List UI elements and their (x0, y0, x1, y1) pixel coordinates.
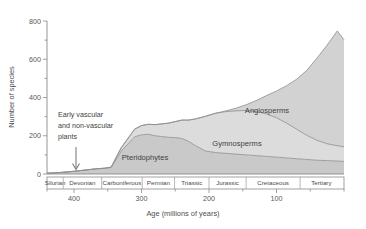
y-tick-label-0: 0 (37, 170, 41, 179)
period-label-jurassic: Jurassic (216, 179, 239, 186)
y-tick-label-600: 600 (29, 55, 41, 64)
period-label-devonian: Devonian (69, 179, 96, 186)
y-tick-label-800: 800 (29, 17, 41, 26)
series-label-gymnosperms: Gymnosperms (212, 139, 262, 148)
x-tick-label-300: 300 (136, 194, 148, 203)
y-axis-title: Number of species (7, 66, 16, 128)
x-axis-title: Age (millions of years) (146, 209, 219, 218)
geologic-period-strip: SilurianDevonianCarboniferousPermianTria… (45, 177, 344, 189)
early-plants-annotation: Early vascular and non-vascular plants (58, 110, 114, 170)
series-label-pteridophytes: Pteridophytes (122, 153, 169, 162)
x-axis-ticks: 400300200100 (47, 189, 344, 203)
period-label-tertiary: Tertiary (311, 179, 332, 186)
period-label-triassic: Triassic (181, 179, 202, 186)
period-label-carboniferous: Carboniferous (102, 179, 141, 186)
annotation-line-1: Early vascular (58, 110, 104, 119)
annotation-line-2: and non-vascular (58, 121, 114, 130)
y-tick-label-400: 400 (29, 93, 41, 102)
y-axis: 0200400600800 (29, 17, 47, 179)
annotation-line-3: plants (58, 132, 78, 141)
series-label-angiosperms: Angiosperms (245, 106, 290, 115)
y-tick-label-200: 200 (29, 131, 41, 140)
y-axis-ticks: 0200400600800 (29, 17, 47, 179)
x-tick-label-200: 200 (203, 194, 215, 203)
period-label-cretaceous: Cretaceous (257, 179, 289, 186)
x-tick-label-400: 400 (68, 194, 80, 203)
species-diversity-area-chart: 0200400600800 400300200100 SilurianDevon… (0, 0, 366, 229)
period-label-permian: Permian (147, 179, 171, 186)
chart-figure: 0200400600800 400300200100 SilurianDevon… (0, 0, 366, 229)
x-tick-label-100: 100 (271, 194, 283, 203)
stacked-area-layer (47, 31, 344, 174)
period-label-silurian: Silurian (45, 179, 66, 186)
